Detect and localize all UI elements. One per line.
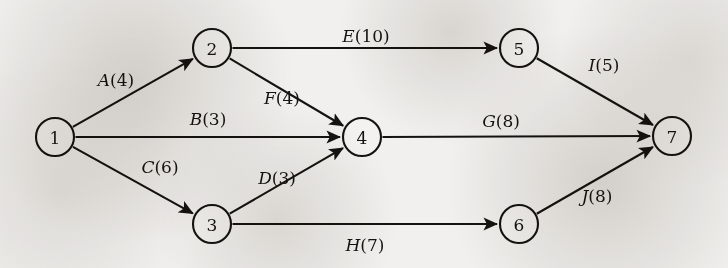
node-4[interactable]: 4 [343,118,381,156]
edge-label-D: D(3) [257,168,296,188]
edge-duration-C: (6) [154,157,178,177]
edge-label-F: F(4) [263,88,300,108]
diagram-canvas: 1234567 A(4)B(3)C(6)D(3)E(10)F(4)G(8)H(7… [0,0,728,268]
node-label-3: 3 [207,215,218,235]
node-label-6: 6 [514,215,525,235]
node-2[interactable]: 2 [193,29,231,67]
edge-duration-J: (8) [588,186,612,206]
node-6[interactable]: 6 [500,205,538,243]
edge-label-E: E(10) [341,26,389,46]
edge-activity-D: D [257,168,272,188]
edge-label-A: A(4) [96,70,134,90]
node-1[interactable]: 1 [36,118,74,156]
node-label-5: 5 [514,39,525,59]
edge-label-H: H(7) [345,235,385,255]
edge-activity-C: C [141,157,154,177]
edge-duration-I: (5) [595,55,619,75]
edge-activity-H: H [345,235,362,255]
edge-duration-E: (10) [355,26,390,46]
node-label-4: 4 [357,128,368,148]
edge-label-I: I(5) [588,55,620,75]
edge-activity-B: B [189,109,203,129]
edge-activity-A: A [96,70,110,90]
edge-duration-G: (8) [496,111,520,131]
node-3[interactable]: 3 [193,205,231,243]
edge-duration-A: (4) [110,70,134,90]
node-label-7: 7 [667,127,678,147]
node-label-2: 2 [207,39,218,59]
edge-duration-H: (7) [360,235,384,255]
edge-duration-B: (3) [202,109,226,129]
edge-duration-D: (3) [272,168,296,188]
edge-4-to-7 [382,136,650,137]
node-label-1: 1 [50,128,61,148]
edge-label-B: B(3) [189,109,227,129]
edge-activity-G: G [482,111,496,131]
activity-network-diagram: 1234567 A(4)B(3)C(6)D(3)E(10)F(4)G(8)H(7… [0,0,728,268]
node-7[interactable]: 7 [653,117,691,155]
edge-label-G: G(8) [482,111,520,131]
edge-duration-F: (4) [276,88,300,108]
edge-activity-E: E [341,26,355,46]
node-5[interactable]: 5 [500,29,538,67]
edge-label-C: C(6) [141,157,178,177]
edge-label-J: J(8) [579,186,613,206]
